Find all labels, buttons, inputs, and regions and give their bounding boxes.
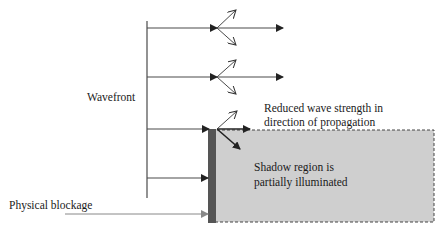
reduced-strength-label-line2: direction of propagation xyxy=(264,115,375,129)
ray-1 xyxy=(147,10,283,45)
physical-blockage-label: Physical blockage xyxy=(9,198,92,212)
reduced-strength-label-line1: Reduced wave strength in xyxy=(264,101,383,115)
ray-2 xyxy=(147,60,283,94)
wavefront-label: Wavefront xyxy=(87,90,135,104)
physical-blockage-bar xyxy=(208,129,216,223)
shadow-region-label-line2: partially illuminated xyxy=(254,175,348,189)
shadow-region-label-line1: Shadow region is xyxy=(254,160,334,174)
